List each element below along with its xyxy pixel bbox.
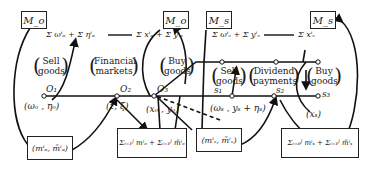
node-o3: O₃	[157, 85, 168, 94]
label-z-xi: (z, ξ)	[106, 102, 128, 111]
node-s3: s₃	[322, 90, 330, 99]
node-o1: O₁	[46, 85, 57, 94]
market-buy-goods-o: Buygoods	[164, 56, 190, 76]
label-x-s: (xₛ)	[306, 110, 321, 119]
label-omega-eta-o: (ωₒ , ηₒ)	[24, 102, 59, 111]
node-s1: s₁	[214, 86, 222, 95]
market-sell-goods-o: Sellgoods	[38, 56, 64, 76]
node-s2: s₂	[276, 86, 284, 95]
box-mo-sum: Σᵢ₌₁ᴶ mⁱₒ + Σᵢ₌₁ᴶ m̃ⁱₒ	[117, 128, 187, 158]
box-ms-sum: Σᵢ₌₀ᴶ mⁱₛ + Σᵢ₌₁ᴶ m̃ⁱₛ	[281, 128, 359, 158]
box-mo-pair: (mⁱₒ, m̃ⁱₒ)	[27, 136, 73, 160]
market-buy-goods-s: Buygoods	[311, 66, 337, 86]
box-ms-pair: (mⁱₛ, m̃ⁱₛ)	[196, 128, 242, 152]
market-dividend-payments: Dividendpayments	[253, 66, 295, 86]
node-o2: O₂	[120, 85, 131, 94]
market-sell-goods-s: Sellgoods	[216, 66, 242, 86]
market-financial: Financialmarkets	[94, 56, 134, 76]
label-omega-y-eta-s: (ωₛ , yₛ + ηₛ)	[210, 104, 266, 113]
label-x-y-o: (xₒ , yₒ)	[146, 105, 179, 114]
